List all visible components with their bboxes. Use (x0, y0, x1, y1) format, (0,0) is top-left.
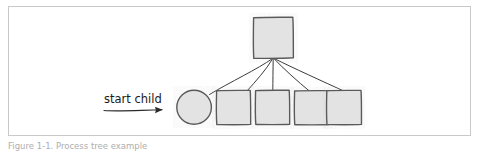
start-child-label: start child (104, 92, 162, 106)
edge-parent-to-child-4 (274, 59, 347, 93)
node-child-1[interactable] (216, 90, 250, 124)
figure-root: start child Figure 1-1. Process tree exa… (0, 0, 483, 151)
edge-group (210, 59, 348, 95)
node-child-circle[interactable] (177, 90, 212, 124)
node-child-4-shape (327, 90, 362, 124)
node-child-3[interactable] (294, 91, 328, 125)
node-child-circle-shape (177, 90, 212, 124)
start-child-annotation: start child (104, 92, 162, 111)
node-child-4[interactable] (327, 90, 362, 124)
node-parent-shape (253, 17, 293, 58)
node-child-2-shape (255, 90, 289, 124)
node-child-3-shape (294, 91, 328, 125)
node-child-1-shape (216, 90, 250, 124)
start-child-arrow (104, 110, 162, 111)
edge-parent-to-child-3 (274, 59, 311, 93)
figure-caption: Figure 1-1. Process tree example (8, 141, 308, 151)
node-child-2[interactable] (255, 90, 289, 124)
node-parent[interactable] (253, 17, 293, 58)
edge-parent-to-child-1 (247, 59, 273, 92)
diagram-canvas: start child (0, 0, 483, 151)
edge-parent-to-child-circle (210, 59, 273, 95)
